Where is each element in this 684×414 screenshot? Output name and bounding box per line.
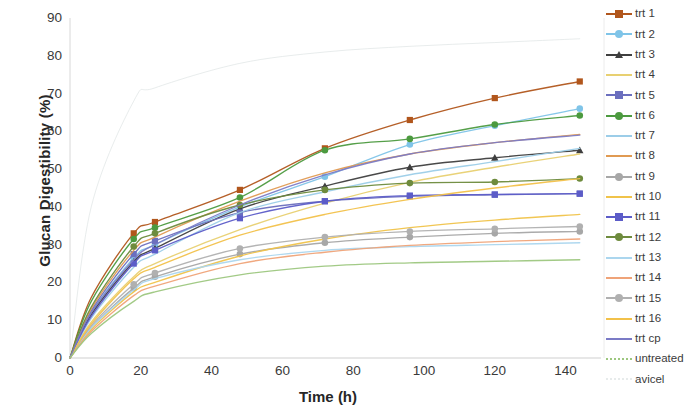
- data-point-marker: [237, 187, 243, 193]
- legend-marker: [615, 294, 623, 302]
- chart-legend: trt 1trt 2trt 3trt 4trt 5trt 6trt 7trt 8…: [606, 4, 679, 410]
- legend-label: trt 4: [635, 69, 655, 81]
- data-point-marker: [576, 223, 583, 230]
- legend-item-trt-15[interactable]: trt 15: [606, 288, 679, 308]
- legend-swatch: [606, 373, 632, 385]
- data-point-marker: [492, 121, 499, 128]
- legend-item-trt-cp[interactable]: trt cp: [606, 329, 679, 349]
- legend-label: trt 12: [635, 232, 661, 244]
- series-trt-8: [70, 134, 580, 358]
- legend-item-trt-4[interactable]: trt 4: [606, 65, 679, 85]
- legend-label: untreated: [635, 353, 684, 365]
- legend-item-trt-14[interactable]: trt 14: [606, 268, 679, 288]
- data-point-marker: [130, 236, 137, 243]
- data-point-marker: [407, 136, 414, 143]
- legend-swatch: [606, 313, 632, 325]
- series-trt-13: [70, 243, 580, 358]
- legend-item-trt-12[interactable]: trt 12: [606, 227, 679, 247]
- legend-swatch: [606, 150, 632, 162]
- data-point-marker: [407, 228, 414, 235]
- legend-swatch: [606, 171, 632, 183]
- data-point-marker: [576, 105, 583, 112]
- legend-item-trt-2[interactable]: trt 2: [606, 24, 679, 44]
- legend-swatch: [606, 211, 632, 223]
- legend-line: [606, 196, 632, 198]
- legend-label: trt 2: [635, 29, 655, 41]
- legend-label: trt 1: [635, 8, 655, 20]
- legend-swatch: [606, 231, 632, 243]
- legend-swatch: [606, 191, 632, 203]
- legend-marker: [615, 233, 623, 241]
- data-point-marker: [407, 141, 414, 148]
- legend-item-trt-9[interactable]: trt 9: [606, 166, 679, 186]
- data-point-marker: [577, 78, 583, 84]
- data-point-marker: [577, 191, 583, 197]
- series-trt-16: [70, 179, 580, 358]
- legend-item-untreated[interactable]: untreated: [606, 349, 679, 369]
- data-point-marker: [152, 224, 159, 231]
- legend-item-trt-11[interactable]: trt 11: [606, 207, 679, 227]
- legend-swatch: [606, 333, 632, 345]
- legend-label: trt 8: [635, 150, 655, 162]
- data-point-marker: [322, 187, 329, 194]
- legend-item-trt-16[interactable]: trt 16: [606, 308, 679, 328]
- legend-item-trt-3[interactable]: trt 3: [606, 45, 679, 65]
- data-point-marker: [492, 226, 499, 233]
- legend-swatch: [606, 353, 632, 365]
- series-trt-5: [70, 191, 583, 358]
- data-point-marker: [322, 234, 329, 241]
- legend-item-trt-7[interactable]: trt 7: [606, 126, 679, 146]
- data-point-marker: [130, 281, 137, 288]
- legend-marker: [615, 10, 623, 18]
- legend-item-trt-6[interactable]: trt 6: [606, 105, 679, 125]
- data-point-marker: [492, 191, 498, 197]
- series-trt-14: [70, 239, 580, 358]
- data-point-marker: [407, 234, 414, 241]
- legend-marker: [615, 91, 623, 99]
- legend-line: [606, 277, 632, 279]
- legend-swatch: [606, 8, 632, 20]
- legend-swatch: [606, 69, 632, 81]
- legend-line: [606, 338, 632, 340]
- legend-swatch: [606, 130, 632, 142]
- legend-label: avicel: [635, 374, 664, 386]
- legend-item-trt-8[interactable]: trt 8: [606, 146, 679, 166]
- legend-line: [606, 257, 632, 259]
- data-point-marker: [492, 179, 499, 186]
- data-point-marker: [237, 245, 244, 252]
- legend-item-trt-13[interactable]: trt 13: [606, 248, 679, 268]
- data-point-marker: [322, 239, 329, 246]
- legend-marker: [615, 213, 623, 221]
- legend-item-trt-1[interactable]: trt 1: [606, 4, 679, 24]
- legend-label: trt 10: [635, 191, 661, 203]
- legend-item-trt-5[interactable]: trt 5: [606, 85, 679, 105]
- legend-label: trt 6: [635, 110, 655, 122]
- data-point-marker: [152, 270, 159, 277]
- legend-swatch: [606, 49, 632, 61]
- legend-marker: [615, 51, 623, 58]
- legend-swatch: [606, 110, 632, 122]
- legend-line: [606, 74, 632, 76]
- series-trt-2: [70, 105, 583, 358]
- legend-item-trt-10[interactable]: trt 10: [606, 187, 679, 207]
- legend-marker: [615, 30, 623, 38]
- legend-label: trt 9: [635, 171, 655, 183]
- legend-item-avicel[interactable]: avicel: [606, 369, 679, 389]
- data-point-marker: [322, 198, 328, 204]
- data-point-marker: [407, 117, 413, 123]
- legend-line: [606, 318, 632, 320]
- data-point-marker: [407, 192, 413, 198]
- legend-line: [606, 155, 632, 157]
- data-point-marker: [152, 247, 158, 253]
- series-untreated: [70, 260, 580, 358]
- legend-label: trt cp: [635, 333, 661, 345]
- data-point-marker: [322, 147, 329, 154]
- data-point-marker: [130, 243, 137, 250]
- legend-line: [606, 358, 632, 360]
- legend-marker: [615, 112, 623, 120]
- legend-label: trt 16: [635, 313, 661, 325]
- legend-swatch: [606, 89, 632, 101]
- legend-label: trt 11: [635, 211, 660, 223]
- legend-line: [606, 378, 632, 380]
